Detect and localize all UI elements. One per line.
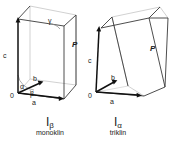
right-cell-vectors bbox=[96, 26, 142, 98]
left-cell-caption: Iβ monoklin bbox=[20, 113, 80, 136]
right-vector-label-c: c bbox=[88, 57, 92, 64]
right-plane-label-P: P bbox=[150, 45, 155, 53]
right-cell-caption: Iα triklin bbox=[88, 113, 148, 136]
right-cell-front-edges bbox=[96, 7, 168, 96]
left-cell-geometry bbox=[16, 6, 76, 101]
left-angle-label-alpha: α bbox=[20, 83, 24, 90]
right-caption-subscript: α bbox=[117, 121, 122, 130]
figure-canvas: c b a α β γ 0 P c b a 0 P Iβ monoklin Iα… bbox=[0, 0, 177, 142]
right-vector-label-b: b bbox=[111, 74, 115, 81]
right-origin-label: 0 bbox=[88, 92, 92, 99]
left-angle-label-gamma: γ bbox=[48, 17, 52, 24]
left-vector-label-b: b bbox=[33, 75, 37, 82]
left-origin-label: 0 bbox=[10, 92, 14, 99]
left-vector-label-c: c bbox=[3, 52, 7, 59]
right-vector-label-a: a bbox=[110, 98, 114, 105]
left-angle-label-beta: β bbox=[30, 90, 34, 97]
left-vector-label-a: a bbox=[32, 99, 36, 106]
right-cell-geometry bbox=[96, 7, 168, 98]
left-plane-label-P: P bbox=[72, 41, 77, 49]
left-caption-subscript: β bbox=[49, 121, 54, 130]
left-cell-front-edges bbox=[18, 6, 76, 99]
